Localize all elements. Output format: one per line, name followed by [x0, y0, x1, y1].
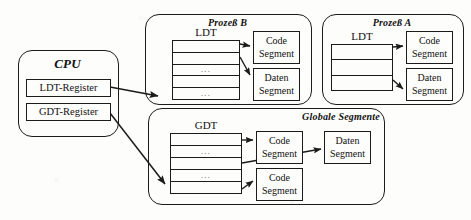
segment-line-1: Code	[257, 172, 302, 185]
segment-line-2: Segment	[254, 85, 299, 98]
ldt-table-b[interactable]: ... ...	[172, 40, 240, 100]
table-row[interactable]: ...	[171, 146, 241, 158]
code-segment-box-a[interactable]: Code Segment	[406, 31, 453, 64]
daten-segment-box-a[interactable]: Daten Segment	[406, 68, 453, 101]
segment-line-1: Daten	[407, 72, 452, 85]
gdt-table-label: GDT	[170, 119, 242, 131]
segment-line-2: Segment	[407, 85, 452, 98]
segment-line-1: Code	[257, 135, 302, 148]
table-row[interactable]	[173, 76, 239, 88]
daten-segment-box-global[interactable]: Daten Segment	[324, 131, 371, 164]
ldt-table-label-b: LDT	[172, 26, 240, 38]
table-row[interactable]	[171, 134, 241, 146]
table-row[interactable]: ...	[171, 170, 241, 182]
segment-line-1: Code	[407, 35, 452, 48]
diagram-canvas: CPU LDT-Register GDT-Register Prozeß B L…	[0, 0, 471, 220]
code-segment-box-b[interactable]: Code Segment	[253, 31, 300, 64]
table-row[interactable]: ...	[173, 65, 239, 77]
segment-line-2: Segment	[254, 48, 299, 61]
segment-line-1: Code	[254, 35, 299, 48]
table-row[interactable]	[332, 76, 392, 90]
ldt-table-a[interactable]	[331, 44, 393, 91]
segment-line-1: Daten	[325, 135, 370, 148]
segment-line-2: Segment	[257, 148, 302, 161]
table-row[interactable]	[332, 60, 392, 75]
table-row[interactable]: ...	[173, 88, 239, 99]
segment-line-2: Segment	[257, 185, 302, 198]
daten-segment-box-b[interactable]: Daten Segment	[253, 68, 300, 101]
gdt-register-box[interactable]: GDT-Register	[26, 103, 111, 121]
table-row[interactable]	[173, 53, 239, 65]
prozess-a-title: Prozeß A	[322, 17, 462, 28]
table-row[interactable]	[332, 45, 392, 60]
table-row[interactable]	[171, 182, 241, 193]
segment-line-2: Segment	[325, 148, 370, 161]
ldt-register-box[interactable]: LDT-Register	[26, 79, 111, 97]
table-row[interactable]	[171, 158, 241, 170]
ldt-table-label-a: LDT	[331, 30, 393, 42]
table-row[interactable]	[173, 41, 239, 53]
segment-line-2: Segment	[407, 48, 452, 61]
gdt-table[interactable]: ... ...	[170, 133, 242, 194]
code-segment-box-global-1[interactable]: Code Segment	[256, 131, 303, 164]
code-segment-box-global-2[interactable]: Code Segment	[256, 168, 303, 201]
segment-line-1: Daten	[254, 72, 299, 85]
cpu-title: CPU	[18, 56, 117, 72]
